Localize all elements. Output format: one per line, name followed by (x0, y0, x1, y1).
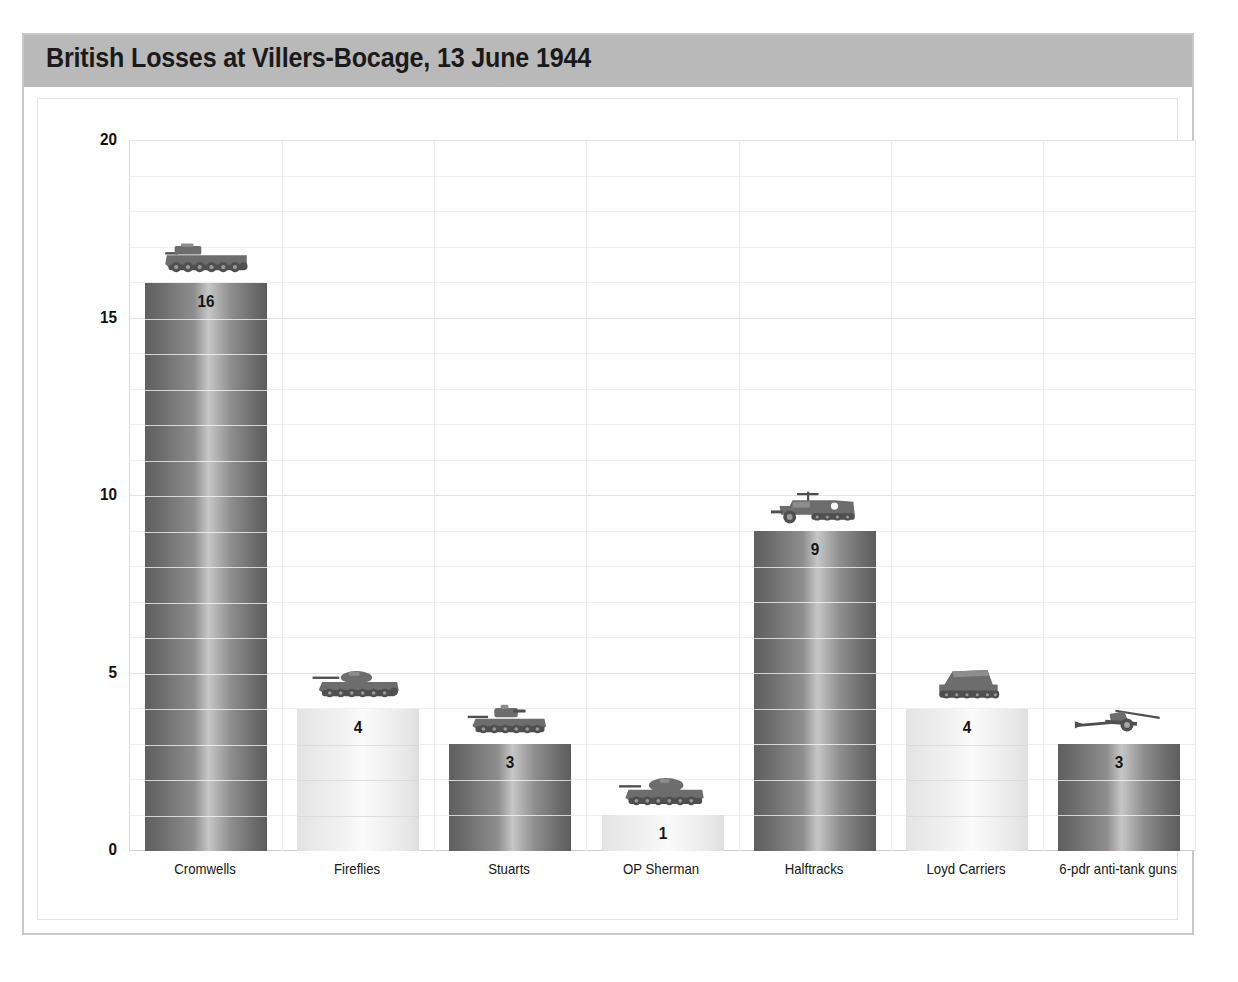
y-axis-tick-label-10: 10 (76, 485, 117, 505)
plot-area: 16 4 3 (129, 140, 1196, 851)
bar: 9 (754, 531, 876, 851)
gridline-y-7 (130, 602, 1195, 603)
gridline-x-4 (739, 141, 740, 851)
category-label-cromwells: Cromwells (138, 860, 272, 877)
gridline-y-11 (130, 460, 1195, 461)
gridline-y-19 (130, 176, 1195, 177)
figure-frame: British Losses at Villers-Bocage, 13 Jun… (22, 33, 1194, 935)
y-axis-tick-label-15: 15 (76, 308, 117, 328)
bar: 3 (1058, 744, 1180, 851)
gridline-x-5 (891, 141, 892, 851)
gridline-x-2 (434, 141, 435, 851)
bar: 1 (602, 815, 724, 851)
bar-value-label: 9 (760, 540, 870, 560)
gridline-y-13 (130, 389, 1195, 390)
gridline-x-1 (282, 141, 283, 851)
gridline-y-5 (130, 673, 1195, 674)
bar-stripes (754, 531, 876, 851)
gridline-y-12 (130, 424, 1195, 425)
bar: 4 (906, 709, 1028, 851)
plot-card: 16 4 3 (37, 98, 1178, 920)
gridline-y-15 (130, 318, 1195, 319)
category-label-op-sherman: OP Sherman (595, 860, 729, 877)
bar: 3 (449, 744, 571, 851)
gridline-y-9 (130, 531, 1195, 532)
gridline-y-2 (130, 779, 1195, 780)
gridline-y-16 (130, 282, 1195, 283)
bar-stripes (145, 283, 267, 851)
gridline-y-6 (130, 637, 1195, 638)
y-axis-tick-label-20: 20 (76, 130, 117, 150)
bar-value-label: 4 (912, 718, 1022, 738)
category-label-fireflies: Fireflies (290, 860, 424, 877)
y-axis-tick-label-5: 5 (76, 663, 117, 683)
bar-value-label: 3 (1064, 753, 1174, 773)
category-label-loyd-carriers: Loyd Carriers (899, 860, 1033, 877)
gridline-y-10 (130, 495, 1195, 496)
category-label-halftracks: Halftracks (747, 860, 881, 877)
gridline-x-3 (586, 141, 587, 851)
bar: 16 (145, 283, 267, 851)
bar-value-label: 1 (608, 824, 718, 844)
chart-title: British Losses at Villers-Bocage, 13 Jun… (46, 43, 591, 74)
gridline-y-3 (130, 744, 1195, 745)
y-axis-tick-label-0: 0 (76, 840, 117, 860)
gridline-y-20 (130, 140, 1195, 141)
bar: 4 (297, 709, 419, 851)
gridline-y-4 (130, 708, 1195, 709)
bar-value-label: 16 (151, 292, 261, 312)
gridline-x-6 (1043, 141, 1044, 851)
title-band: British Losses at Villers-Bocage, 13 Jun… (24, 35, 1192, 87)
bar-value-label: 4 (303, 718, 413, 738)
gridline-y-8 (130, 566, 1195, 567)
gridline-y-14 (130, 353, 1195, 354)
bar-value-label: 3 (455, 753, 565, 773)
category-label-6-pdr-anti-tank-guns: 6-pdr anti-tank guns (1051, 860, 1185, 877)
gridline-y-17 (130, 247, 1195, 248)
category-label-stuarts: Stuarts (442, 860, 576, 877)
gridline-y-18 (130, 211, 1195, 212)
